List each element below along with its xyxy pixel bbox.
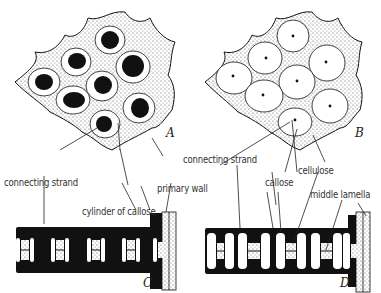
- panel-label-d: D: [340, 276, 350, 290]
- label-cellulose: cellulose: [298, 164, 334, 176]
- label-cylinder-of-callose: cylinder of callose: [82, 205, 156, 217]
- label-primary-wall: primary wall: [157, 182, 208, 194]
- panel-b-surface: [205, 12, 362, 150]
- panel-label-c: C: [143, 276, 152, 290]
- panel-label-a: A: [166, 126, 175, 140]
- label-callose: callose: [265, 176, 293, 188]
- sieve-plate-diagram: [0, 0, 381, 293]
- label-connecting-strand-d: connecting strand: [183, 153, 257, 165]
- panel-label-b: B: [355, 126, 364, 140]
- label-connecting-strand-c: connecting strand: [4, 176, 78, 188]
- label-middle-lamella: middle lamella: [310, 188, 370, 200]
